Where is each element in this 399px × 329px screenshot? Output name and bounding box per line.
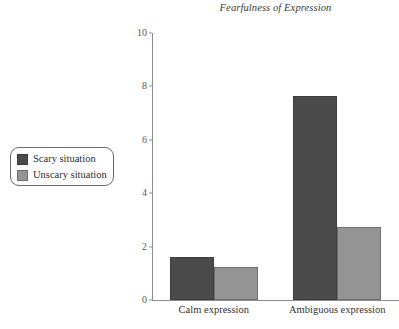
y-axis-tick-label: 8 — [142, 81, 147, 91]
y-axis-tick-label: 6 — [142, 135, 147, 145]
bar-scary-group-0 — [170, 257, 214, 300]
legend-label-scary: Scary situation — [33, 154, 96, 165]
x-axis-category-label: Calm expression — [152, 304, 276, 315]
y-axis-tick-label: 0 — [142, 295, 147, 305]
y-axis-tick-mark — [149, 33, 152, 34]
y-axis-tick-mark — [149, 86, 152, 87]
legend-item-scary-situation: Scary situation — [17, 152, 108, 166]
chart-legend: Scary situation Unscary situation — [10, 147, 114, 186]
legend-swatch-icon-unscary — [17, 170, 28, 181]
y-axis-tick-mark — [149, 300, 152, 301]
y-axis-tick-label: 4 — [142, 188, 147, 198]
x-axis-line — [152, 300, 399, 301]
legend-swatch-icon-scary — [17, 154, 28, 165]
x-axis-category-label: Ambiguous expression — [276, 304, 399, 315]
y-axis-tick-mark — [149, 193, 152, 194]
bar-unscary-group-1 — [337, 227, 381, 300]
bar-chart-figure: Fearfulness of Expression 0246810 Calm e… — [0, 0, 399, 329]
legend-item-unscary-situation: Unscary situation — [17, 168, 108, 182]
bar-unscary-group-0 — [214, 267, 258, 300]
plot-area: 0246810 — [152, 33, 399, 300]
y-axis-tick-label: 2 — [142, 242, 147, 252]
y-axis-tick-label: 10 — [137, 28, 147, 38]
y-axis-tick-mark — [149, 139, 152, 140]
chart-title: Fearfulness of Expression — [152, 2, 399, 13]
legend-label-unscary: Unscary situation — [33, 170, 107, 181]
y-axis-tick-mark — [149, 246, 152, 247]
bar-scary-group-1 — [293, 96, 337, 300]
